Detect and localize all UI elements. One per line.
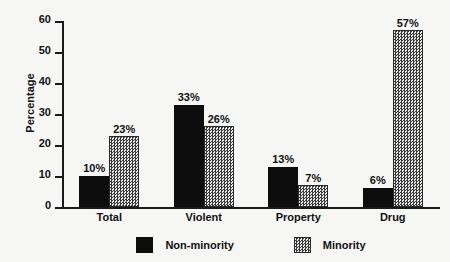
bar-property-minority: 7% xyxy=(298,185,328,207)
legend-swatch-icon xyxy=(136,237,153,253)
bar-value-label: 10% xyxy=(83,162,105,174)
x-axis-line xyxy=(62,207,440,209)
bar-value-label: 23% xyxy=(113,123,135,135)
y-axis-tick-label: 60 xyxy=(39,13,51,25)
legend-label: Minority xyxy=(323,239,366,251)
y-axis-tick-label: 40 xyxy=(39,75,51,87)
y-axis-tick: 20 xyxy=(55,145,62,147)
y-axis-tick-label: 30 xyxy=(39,106,51,118)
y-axis-tick-label: 50 xyxy=(39,44,51,56)
y-axis-tick: 10 xyxy=(55,176,62,178)
bar-value-label: 6% xyxy=(370,174,386,186)
x-axis-label-property: Property xyxy=(276,211,321,223)
bar-property-non-minority: 13% xyxy=(268,167,298,207)
y-axis-line xyxy=(62,21,64,208)
x-axis-label-violent: Violent xyxy=(186,211,222,223)
bar-value-label: 57% xyxy=(397,17,419,29)
plot-area: 0102030405060 10%23%33%26%13%7%6%57% Tot… xyxy=(62,21,440,207)
y-axis-tick-label: 20 xyxy=(39,137,51,149)
chart-legend: Non-minorityMinority xyxy=(62,232,440,258)
legend-item-minority: Minority xyxy=(294,237,366,253)
x-axis-label-total: Total xyxy=(97,211,122,223)
legend-label: Non-minority xyxy=(165,239,233,251)
legend-item-non-minority: Non-minority xyxy=(136,237,233,253)
y-axis-tick-label: 0 xyxy=(45,199,51,211)
bar-violent-minority: 26% xyxy=(204,126,234,207)
legend-swatch-icon xyxy=(294,237,311,253)
y-axis-tick: 0 xyxy=(55,207,62,209)
y-axis-tick-label: 10 xyxy=(39,168,51,180)
bar-chart: Percentage 0102030405060 10%23%33%26%13%… xyxy=(0,0,450,262)
y-axis-tick: 40 xyxy=(55,83,62,85)
bar-value-label: 13% xyxy=(272,153,294,165)
bar-drug-non-minority: 6% xyxy=(363,188,393,207)
bar-violent-non-minority: 33% xyxy=(174,105,204,207)
y-axis-tick: 50 xyxy=(55,52,62,54)
bar-total-minority: 23% xyxy=(109,136,139,207)
bar-value-label: 7% xyxy=(305,172,321,184)
bar-value-label: 26% xyxy=(208,113,230,125)
y-axis-tick: 60 xyxy=(55,21,62,23)
bar-total-non-minority: 10% xyxy=(79,176,109,207)
y-axis-tick: 30 xyxy=(55,114,62,116)
x-axis-label-drug: Drug xyxy=(380,211,406,223)
bar-drug-minority: 57% xyxy=(393,30,423,207)
bar-value-label: 33% xyxy=(178,91,200,103)
